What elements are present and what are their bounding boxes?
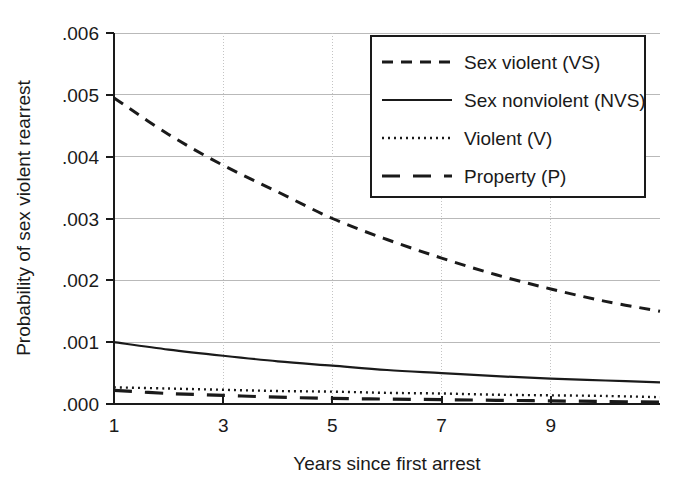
x-tick-label: 1	[109, 415, 120, 436]
y-tick-label: .006	[62, 23, 99, 44]
series-line-violent-v	[114, 387, 660, 397]
y-tick-label: .000	[62, 394, 99, 415]
x-tick-label: 3	[218, 415, 229, 436]
x-tick-label: 5	[327, 415, 338, 436]
y-tick-label: .005	[62, 85, 99, 106]
x-axis-title: Years since first arrest	[293, 453, 481, 474]
y-axis-title: Probability of sex violent rearrest	[13, 79, 34, 355]
y-tick-label: .001	[62, 332, 99, 353]
x-tick-label: 7	[436, 415, 447, 436]
x-tick-label: 9	[546, 415, 557, 436]
y-tick-label: .002	[62, 270, 99, 291]
series-line-sex-nonviolent-nvs	[114, 342, 660, 382]
chart-legend: Sex violent (VS)Sex nonviolent (NVS)Viol…	[371, 36, 646, 197]
x-axis-ticks: 13579	[109, 396, 556, 436]
legend-label: Violent (V)	[464, 128, 552, 149]
y-tick-label: .003	[62, 209, 99, 230]
legend-label: Sex nonviolent (NVS)	[464, 90, 646, 111]
series-line-property-p	[114, 390, 660, 402]
legend-label: Sex violent (VS)	[464, 52, 600, 73]
legend-label: Property (P)	[464, 166, 566, 187]
chart-figure: .000.001.002.003.004.005.006 13579 Years…	[0, 0, 689, 490]
y-axis-ticks: .000.001.002.003.004.005.006	[62, 23, 114, 415]
y-tick-label: .004	[62, 147, 99, 168]
line-chart: .000.001.002.003.004.005.006 13579 Years…	[0, 0, 689, 490]
